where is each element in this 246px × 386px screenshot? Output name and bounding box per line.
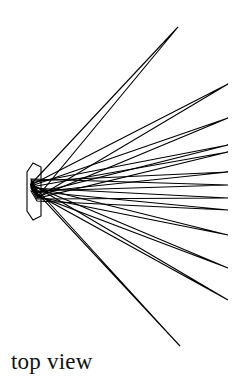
fan-rotor-top-view-diagram xyxy=(0,0,246,386)
figure-caption: top view xyxy=(11,349,92,375)
figure-container: top view xyxy=(0,0,246,386)
